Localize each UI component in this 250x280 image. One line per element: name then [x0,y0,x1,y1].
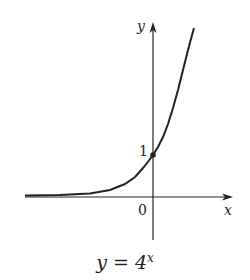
graph-caption: y = 4x [0,251,250,273]
point-0-1 [150,152,156,158]
caption-exponent: x [147,251,154,265]
origin-label: 0 [138,202,147,218]
caption-text: y = 4 [96,251,147,273]
exponential-curve [25,28,194,196]
y-axis-label: y [137,18,145,34]
x-axis-label: x [224,202,232,218]
exponential-graph [0,0,250,280]
y-one-label: 1 [139,143,148,159]
